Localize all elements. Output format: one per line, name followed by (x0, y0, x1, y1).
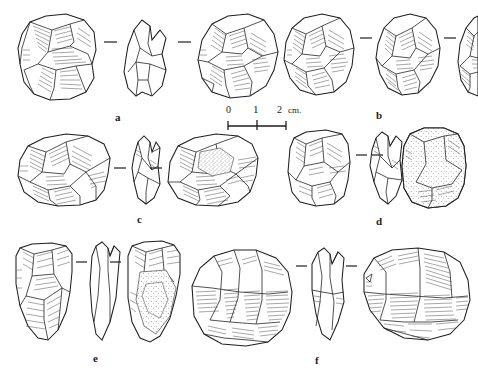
specimen-label-f: f (315, 355, 319, 366)
specimen-label-c: c (137, 214, 142, 225)
plate-drawing (0, 0, 478, 378)
specimen-a-drawing (18, 14, 278, 100)
scale-bar: 0 1 2 cm. (222, 104, 318, 134)
specimen-c-drawing (18, 134, 258, 206)
scale-bar-rule (222, 118, 318, 134)
scale-unit-label: cm. (288, 106, 301, 115)
specimen-e-drawing (16, 241, 180, 342)
scale-tick-0-label: 0 (226, 105, 231, 115)
specimen-label-a: a (115, 112, 121, 123)
specimen-label-e: e (93, 353, 98, 364)
specimen-label-b: b (376, 110, 382, 121)
specimen-f-drawing (192, 248, 470, 346)
scale-bar-numbers: 0 1 2 cm. (222, 104, 318, 118)
scale-tick-1-label: 1 (253, 104, 259, 115)
artifact-plate: 0 1 2 cm. a b c d e f (0, 0, 478, 378)
scale-tick-2-label: 2 (277, 105, 282, 115)
specimen-d-drawing (288, 128, 466, 208)
specimen-label-d: d (376, 216, 382, 227)
specimen-b-drawing (284, 14, 478, 96)
